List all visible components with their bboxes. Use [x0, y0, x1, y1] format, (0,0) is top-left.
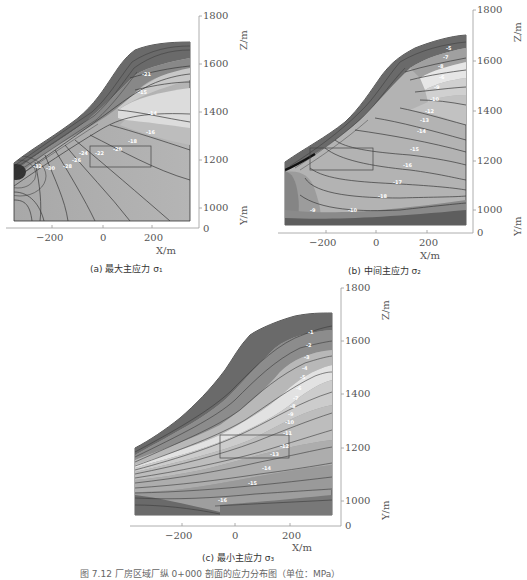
contour-label: -15 — [410, 146, 420, 152]
panel-caption-c: (c) 最小主应力 σ₃ — [202, 551, 274, 564]
z-tick: 1400 — [203, 106, 228, 117]
panel-a: -21 -15 -14 -16 -18 -20 -22 -24 -26 -28 … — [0, 0, 260, 280]
z-axis-title: Z/m — [380, 300, 391, 320]
contour-label: -6 — [439, 74, 445, 80]
z-tick: 1800 — [345, 282, 370, 293]
contour-label: -15 — [248, 480, 258, 486]
contour-label: -16 — [146, 129, 156, 135]
z-axis-title: Z/m — [238, 30, 249, 50]
x-tick: 200 — [144, 232, 163, 243]
x-axis-title: X/m — [156, 245, 176, 256]
contour-label: -26 — [72, 157, 82, 163]
contour-label: -10 — [430, 96, 440, 102]
x-tick: −200 — [36, 232, 63, 243]
contour-label: -22 — [95, 150, 105, 156]
contour-label: -21 — [142, 71, 152, 77]
x-tick: 200 — [419, 237, 438, 248]
contour-label: -12 — [425, 108, 435, 114]
z-tick: 1400 — [345, 388, 370, 399]
contour-label: -14 — [417, 128, 427, 134]
z-tick: 1800 — [203, 10, 228, 21]
x-tick: −200 — [309, 237, 336, 248]
contour-label: -18 — [128, 138, 138, 144]
z-axis-title: Z/m — [512, 22, 523, 42]
contour-label: -9 — [310, 207, 316, 213]
x-tick: −200 — [165, 530, 192, 541]
z-tick: 1200 — [477, 155, 502, 166]
panel-caption-b: (b) 中间主应力 σ₂ — [348, 264, 421, 277]
z-tick: 0 — [203, 223, 209, 234]
x-tick: 0 — [232, 530, 238, 541]
panel-caption-a: (a) 最大主应力 σ₁ — [90, 262, 163, 275]
z-tick: 1600 — [477, 55, 502, 66]
contour-label: -18 — [378, 193, 388, 199]
z-tick: 1600 — [345, 335, 370, 346]
z-tick: 1400 — [477, 105, 502, 116]
contour-label: -11 — [283, 430, 293, 436]
x-tick: 0 — [100, 232, 106, 243]
figure-caption: 图 7.12 厂房区域厂纵 0+000 剖面的应力分布图（单位：MPa） — [80, 567, 340, 580]
contour-label: -10 — [285, 419, 295, 425]
z-tick: 0 — [345, 520, 351, 531]
x-tick: 200 — [282, 530, 301, 541]
x-axis-title: X/m — [292, 542, 312, 553]
z-tick: 1800 — [477, 4, 502, 15]
panel-b: -5 -7 -8 -6 -9 -10 -12 -13 -14 -15 -16 -… — [260, 0, 527, 280]
contour-label: -13 — [270, 451, 280, 457]
contour-label: -13 — [420, 117, 430, 123]
contour-label: -1 — [308, 329, 314, 335]
contour-label: -2 — [306, 342, 312, 348]
z-tick: 1600 — [203, 58, 228, 69]
y-axis-title: Y/m — [512, 217, 523, 236]
y-axis-title: Y/m — [238, 206, 249, 225]
z-tick: 0 — [477, 227, 483, 238]
z-tick: 1200 — [203, 154, 228, 165]
contour-label: -9 — [434, 84, 440, 90]
contour-label: -28 — [63, 163, 73, 169]
contour-label: -6 — [296, 385, 302, 391]
contour-label: -14 — [262, 465, 272, 471]
z-tick: 1000 — [203, 202, 228, 213]
z-tick: 1000 — [345, 495, 370, 506]
contour-label: -9 — [288, 411, 294, 417]
y-axis-title: Y/m — [380, 501, 391, 520]
contour-label: -17 — [393, 179, 403, 185]
contour-label: -7 — [293, 395, 299, 401]
contour-label: -16 — [218, 497, 228, 503]
contour-label: -20 — [113, 146, 123, 152]
contour-label: -8 — [290, 403, 296, 409]
contour-label: -14 — [148, 110, 158, 116]
z-tick: 1200 — [345, 442, 370, 453]
x-tick: 0 — [373, 237, 379, 248]
contour-plot-c: -1 -2 -3 -4 -5 -6 -7 -8 -9 -10 -11 -12 -… — [120, 280, 400, 560]
contour-label: -5 — [446, 45, 452, 51]
contour-label: -3 — [304, 354, 310, 360]
contour-label: -30 — [46, 165, 56, 171]
z-tick: 1000 — [477, 204, 502, 215]
contour-label: -5 — [300, 374, 306, 380]
contour-label: -32 — [33, 163, 43, 169]
x-axis-title: X/m — [420, 250, 440, 261]
contour-label: -15 — [138, 89, 148, 95]
contour-label: -16 — [403, 162, 413, 168]
contour-label: -12 — [280, 443, 290, 449]
contour-label: -8 — [438, 63, 444, 69]
contour-plot-b: -5 -7 -8 -6 -9 -10 -12 -13 -14 -15 -16 -… — [260, 0, 527, 280]
contour-label: -10 — [348, 207, 358, 213]
contour-label: -7 — [443, 54, 449, 60]
contour-label: -24 — [79, 150, 89, 156]
panel-c: -1 -2 -3 -4 -5 -6 -7 -8 -9 -10 -11 -12 -… — [120, 280, 400, 560]
contour-label: -4 — [302, 365, 308, 371]
